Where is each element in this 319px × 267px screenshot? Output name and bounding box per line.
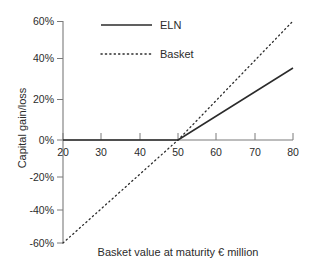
- x-tick-label-80: 80: [281, 147, 305, 158]
- legend-label-basket: Basket: [160, 48, 194, 60]
- legend-label-eln: ELN: [160, 19, 181, 31]
- x-axis-title: Basket value at maturity € million: [60, 246, 296, 258]
- x-tick-label-40: 40: [128, 147, 152, 158]
- x-tick-label-30: 30: [89, 147, 113, 158]
- x-tick-label-70: 70: [243, 147, 267, 158]
- y-tick-label-neg40: -40%: [10, 205, 54, 216]
- x-tick-label-20: 20: [51, 147, 75, 158]
- x-tick-label-60: 60: [204, 147, 228, 158]
- y-axis-title: Capital gain/loss: [16, 58, 28, 198]
- chart-figure: 60% 40% 20% 0% -20% -40% -60% 20 30 40 5…: [0, 0, 319, 267]
- x-tick-label-50: 50: [166, 147, 190, 158]
- y-tick-label-neg60: -60%: [10, 238, 54, 249]
- series-line-eln: [63, 68, 293, 140]
- y-tick-label-60: 60%: [10, 16, 54, 27]
